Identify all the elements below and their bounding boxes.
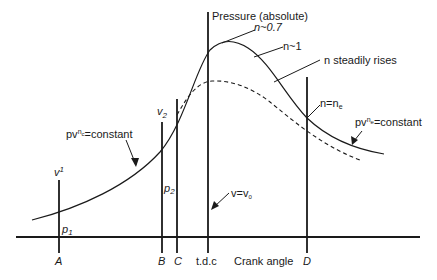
leader-n-ne	[307, 105, 320, 118]
leader-n-rises	[274, 60, 320, 82]
marker-label-tdc: t.d.c	[196, 255, 217, 267]
label-expansion: pvne=constant	[355, 116, 422, 128]
label-n-rises: n steadily rises	[324, 54, 397, 66]
label-p1: p1	[61, 223, 73, 237]
label-v2: v2	[157, 105, 168, 120]
label-n07: n~0.7	[254, 21, 283, 33]
marker-label-A: A	[54, 255, 62, 267]
motoring-pressure-curve	[177, 81, 360, 160]
leader-n07	[222, 30, 255, 43]
label-n1: n~1	[283, 40, 302, 52]
label-p2: p2	[163, 182, 175, 196]
arrow-v0	[211, 193, 229, 210]
label-compression: pvnc=constant	[66, 128, 133, 140]
x-axis-label: Crank angle	[234, 255, 293, 267]
pressure-crank-diagram: Pressure (absolute) n~0.7 n~1 n steadily…	[0, 0, 437, 280]
marker-label-B: B	[158, 255, 165, 267]
marker-label-D: D	[303, 255, 311, 267]
marker-label-C: C	[174, 255, 182, 267]
label-v1: v1	[54, 165, 64, 178]
label-n-ne: n=ne	[320, 97, 343, 110]
arrow-expansion	[351, 131, 362, 145]
label-v-v0: v=v0	[231, 187, 252, 200]
arrow-compression	[126, 140, 139, 167]
leader-n1	[254, 47, 283, 57]
